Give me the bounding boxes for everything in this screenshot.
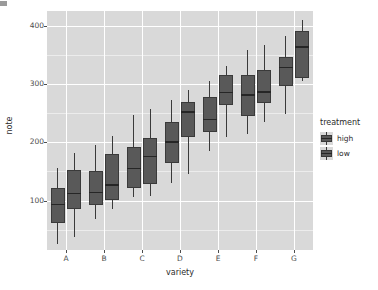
whisker-lower [95, 205, 96, 219]
median-line [105, 184, 119, 186]
whisker-upper [209, 81, 210, 97]
median-line [203, 119, 217, 121]
x-axis-tick-mark [142, 250, 143, 253]
median-line [219, 92, 233, 94]
whisker-lower [133, 188, 134, 197]
legend-items: highlow [320, 131, 378, 160]
x-axis-title-label: variety [166, 268, 194, 277]
legend-key-boxplot-icon [320, 147, 333, 160]
whisker-upper [247, 50, 248, 75]
whisker-upper [188, 90, 189, 102]
median-line [165, 141, 179, 143]
y-axis-tick-label: 100 [18, 197, 44, 205]
whisker-lower [302, 78, 303, 81]
x-axis-tick-label: B [94, 255, 114, 263]
whisker-lower [188, 137, 189, 173]
boxplot-box [51, 168, 65, 244]
boxplot-box [165, 100, 179, 183]
y-axis-tick-label: 200 [18, 138, 44, 146]
boxplot-box [241, 50, 255, 134]
whisker-upper [74, 153, 75, 171]
y-axis-tick-label: 400 [18, 22, 44, 30]
boxplot-box [219, 66, 233, 138]
box-iqr [67, 170, 81, 209]
legend-title: treatment [320, 118, 378, 127]
median-line [51, 204, 65, 206]
whisker-upper [302, 20, 303, 32]
median-line [143, 156, 157, 158]
whisker-upper [264, 45, 265, 70]
median-line [241, 94, 255, 96]
whisker-lower [74, 209, 75, 236]
legend-item-label: high [337, 134, 353, 143]
whisker-lower [209, 132, 210, 151]
whisker-lower [226, 105, 227, 137]
y-axis-tick-labels: 100200300400 [14, 0, 44, 290]
whisker-upper [57, 168, 58, 187]
median-line [67, 193, 81, 195]
whisker-upper [226, 66, 227, 75]
median-line [127, 168, 141, 170]
boxplot-box [257, 45, 271, 121]
y-axis-tick-mark [44, 26, 47, 27]
box-iqr [257, 70, 271, 103]
whisker-upper [95, 145, 96, 172]
x-axis-tick-label: F [246, 255, 266, 263]
x-axis-tick-mark [294, 250, 295, 253]
boxplot-box [181, 90, 195, 173]
box-iqr [203, 97, 217, 131]
legend-item-label: low [337, 149, 350, 158]
x-axis-tick-label: G [284, 255, 304, 263]
whisker-upper [150, 109, 151, 138]
x-axis-tick-label: C [132, 255, 152, 263]
gridline-major-vertical [104, 11, 105, 250]
boxplot-box [279, 36, 293, 114]
box-iqr [89, 171, 103, 205]
y-axis-tick-mark [44, 84, 47, 85]
y-axis-tick-mark [44, 142, 47, 143]
y-axis-tick-mark [44, 201, 47, 202]
y-axis-title-label: note [5, 116, 14, 134]
plot-panel [47, 11, 313, 250]
whisker-lower [264, 103, 265, 122]
boxplot-box [143, 109, 157, 196]
boxplot-box [89, 145, 103, 220]
whisker-lower [171, 163, 172, 183]
x-axis-tick-mark [104, 250, 105, 253]
median-line [279, 67, 293, 69]
x-axis-tick-label: A [56, 255, 76, 263]
legend-item-low[interactable]: low [320, 146, 378, 160]
whisker-upper [133, 115, 134, 147]
legend-item-high[interactable]: high [320, 131, 378, 145]
box-iqr [219, 75, 233, 105]
box-iqr [105, 154, 119, 201]
boxplot-chart: note 100200300400 variety treatment high… [0, 0, 378, 290]
x-axis-tick-mark [256, 250, 257, 253]
boxplot-box [203, 81, 217, 151]
x-axis-tick-mark [66, 250, 67, 253]
whisker-lower [285, 86, 286, 114]
x-axis-tick-label: D [170, 255, 190, 263]
whisker-upper [112, 136, 113, 154]
box-iqr [143, 138, 157, 184]
x-axis-tick-label: E [208, 255, 228, 263]
whisker-lower [57, 223, 58, 245]
boxplot-box [67, 153, 81, 237]
median-line [89, 192, 103, 194]
whisker-upper [285, 36, 286, 57]
x-axis-tick-mark [218, 250, 219, 253]
median-line [181, 111, 195, 113]
x-axis-title: variety [47, 268, 313, 277]
median-line [257, 91, 271, 93]
boxplot-box [295, 20, 309, 81]
legend-key-boxplot-icon [320, 132, 333, 145]
y-axis-tick-label: 300 [18, 80, 44, 88]
legend: treatment highlow [320, 118, 378, 161]
median-line [295, 46, 309, 48]
whisker-lower [112, 200, 113, 209]
whisker-upper [171, 100, 172, 122]
box-iqr [279, 57, 293, 86]
whisker-lower [150, 184, 151, 196]
box-iqr [181, 102, 195, 137]
boxplot-box [127, 115, 141, 198]
